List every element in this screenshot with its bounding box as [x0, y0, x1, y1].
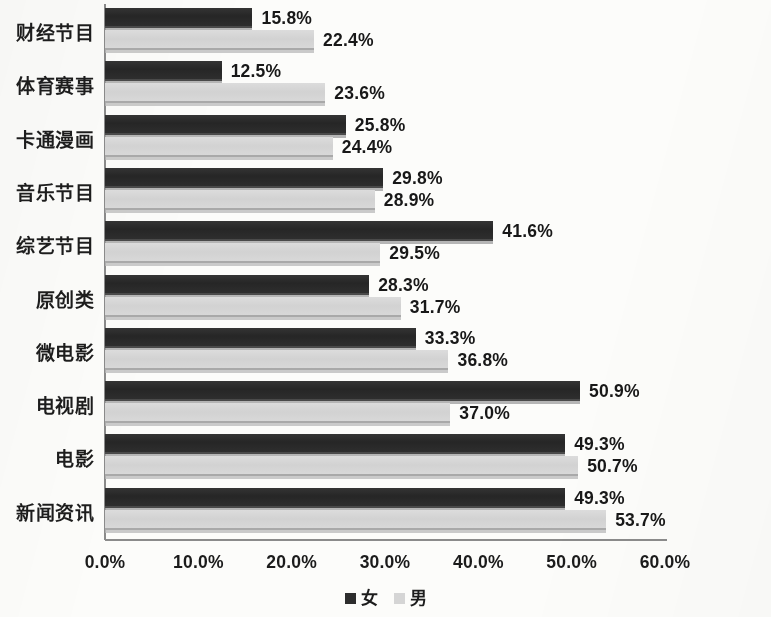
bar-male [105, 190, 375, 210]
x-axis-tick-label: 40.0% [453, 552, 504, 573]
bar-fill [105, 168, 383, 188]
bar-female [105, 434, 565, 454]
bar-fill [105, 115, 346, 135]
legend-swatch-icon [345, 593, 356, 604]
bar-value-label-female: 29.8% [392, 168, 443, 188]
bar-chart: 0.0%10.0%20.0%30.0%40.0%50.0%60.0% 女男 财经… [0, 0, 771, 617]
bar-edge [105, 157, 333, 160]
bar-male [105, 510, 606, 530]
bar-value-label-male: 28.9% [384, 190, 435, 210]
bar-male [105, 137, 333, 157]
bar-value-label-male: 29.5% [389, 243, 440, 263]
category-label: 微电影 [0, 344, 94, 363]
bar-female [105, 381, 580, 401]
category-label: 卡通漫画 [0, 131, 94, 150]
bar-male [105, 30, 314, 50]
bar-value-label-female: 28.3% [378, 275, 429, 295]
bar-fill [105, 137, 333, 157]
bar-fill [105, 403, 450, 423]
bar-male [105, 243, 380, 263]
bar-male [105, 350, 448, 370]
bar-value-label-female: 50.9% [589, 381, 640, 401]
bar-male [105, 297, 401, 317]
chart-legend: 女男 [0, 590, 771, 607]
x-axis-tick-label: 60.0% [640, 552, 691, 573]
bar-fill [105, 350, 448, 370]
legend-swatch-icon [394, 593, 405, 604]
legend-item: 男 [394, 590, 427, 607]
x-axis-line [105, 539, 667, 541]
bar-fill [105, 221, 493, 241]
bar-value-label-male: 23.6% [334, 83, 385, 103]
bar-edge [105, 50, 314, 53]
bar-fill [105, 83, 325, 103]
bar-female [105, 328, 416, 348]
bar-female [105, 275, 369, 295]
bar-fill [105, 8, 252, 28]
bar-edge [105, 103, 325, 106]
category-label: 财经节目 [0, 24, 94, 43]
category-label: 体育赛事 [0, 77, 94, 96]
bar-edge [105, 370, 448, 373]
bar-fill [105, 61, 222, 81]
bar-fill [105, 275, 369, 295]
bar-value-label-female: 33.3% [425, 328, 476, 348]
bar-value-label-male: 24.4% [342, 137, 393, 157]
legend-label: 男 [410, 590, 427, 607]
category-label: 新闻资讯 [0, 504, 94, 523]
bar-fill [105, 297, 401, 317]
bar-fill [105, 30, 314, 50]
bar-female [105, 168, 383, 188]
bar-fill [105, 190, 375, 210]
bar-male [105, 403, 450, 423]
x-axis-tick-label: 30.0% [360, 552, 411, 573]
bar-value-label-male: 22.4% [323, 30, 374, 50]
bar-value-label-female: 15.8% [261, 8, 312, 28]
bar-value-label-male: 31.7% [410, 297, 461, 317]
bar-edge [105, 530, 606, 533]
category-label: 音乐节目 [0, 184, 94, 203]
legend-item: 女 [345, 590, 378, 607]
bar-edge [105, 476, 578, 479]
x-axis-tick-label: 0.0% [85, 552, 126, 573]
bar-edge [105, 423, 450, 426]
bar-female [105, 61, 222, 81]
bar-value-label-female: 12.5% [231, 61, 282, 81]
bar-fill [105, 243, 380, 263]
category-label: 电影 [0, 450, 94, 469]
bar-male [105, 83, 325, 103]
bar-female [105, 488, 565, 508]
bar-value-label-female: 25.8% [355, 115, 406, 135]
bar-value-label-female: 49.3% [574, 488, 625, 508]
bar-value-label-female: 41.6% [502, 221, 553, 241]
bar-female [105, 8, 252, 28]
bar-value-label-female: 49.3% [574, 434, 625, 454]
bar-female [105, 115, 346, 135]
category-label: 原创类 [0, 291, 94, 310]
bar-edge [105, 317, 401, 320]
bar-female [105, 221, 493, 241]
bar-value-label-male: 50.7% [587, 456, 638, 476]
bar-fill [105, 328, 416, 348]
bar-male [105, 456, 578, 476]
bar-value-label-male: 37.0% [459, 403, 510, 423]
x-axis-tick-label: 20.0% [266, 552, 317, 573]
bar-edge [105, 210, 375, 213]
category-label: 电视剧 [0, 397, 94, 416]
bar-fill [105, 488, 565, 508]
bar-fill [105, 510, 606, 530]
legend-label: 女 [361, 590, 378, 607]
bar-value-label-male: 36.8% [457, 350, 508, 370]
bar-fill [105, 456, 578, 476]
x-axis-tick-label: 50.0% [546, 552, 597, 573]
category-label: 综艺节目 [0, 237, 94, 256]
bar-edge [105, 263, 380, 266]
bar-value-label-male: 53.7% [615, 510, 666, 530]
bar-fill [105, 381, 580, 401]
x-axis-tick-label: 10.0% [173, 552, 224, 573]
bar-fill [105, 434, 565, 454]
